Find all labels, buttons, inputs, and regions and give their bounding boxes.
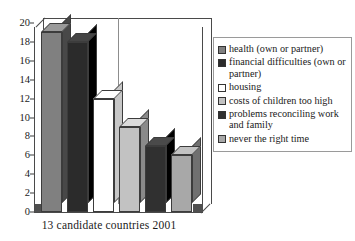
y-axis-tick-label: 10 <box>20 112 31 123</box>
legend-swatch-icon <box>218 84 226 92</box>
legend-item-1[interactable]: health (own or partner) <box>218 43 348 54</box>
bar-2 <box>67 42 88 212</box>
legend-item-label: never the right time <box>229 133 309 144</box>
bar-5 <box>145 146 166 212</box>
legend-item-label: problems reconciling work and family <box>229 108 348 131</box>
legend: health (own or partner)financial difficu… <box>213 37 352 152</box>
legend-swatch-icon <box>218 135 226 143</box>
legend-item-label: housing <box>229 81 261 92</box>
bar-front-face <box>67 42 88 212</box>
y-axis-tick-label: 12 <box>20 93 31 104</box>
y-axis-tick-mark <box>30 193 34 194</box>
legend-item-6[interactable]: never the right time <box>218 133 348 144</box>
bar-chart: 20181614121086420 13 candidate countries… <box>0 0 355 241</box>
y-axis-tick-mark <box>30 174 34 175</box>
bar-front-face <box>171 155 192 212</box>
bar-4 <box>119 127 140 212</box>
y-axis-tick-mark <box>30 79 34 80</box>
y-axis-tick-label: 16 <box>20 56 31 67</box>
legend-item-4[interactable]: costs of children too high <box>218 95 348 106</box>
y-axis-tick-label: 18 <box>20 37 31 48</box>
bar-front-face <box>145 146 166 212</box>
legend-item-label: financial difficulties (own or partner) <box>229 56 348 79</box>
y-axis-tick-mark <box>30 212 34 213</box>
plot-area <box>34 18 212 213</box>
y-axis-tick-mark <box>30 98 34 99</box>
legend-swatch-icon <box>218 97 226 105</box>
legend-item-3[interactable]: housing <box>218 81 348 92</box>
y-axis-tick-mark <box>30 117 34 118</box>
legend-item-label: health (own or partner) <box>229 43 323 54</box>
x-axis-label: 13 candidate countries 2001 <box>0 219 218 231</box>
legend-swatch-icon <box>218 46 226 54</box>
y-axis-tick-mark <box>30 60 34 61</box>
bars-group <box>35 18 203 213</box>
y-axis-tick-label: 20 <box>20 18 31 29</box>
bar-front-face <box>119 127 140 212</box>
legend-swatch-icon <box>218 59 226 67</box>
legend-swatch-icon <box>218 111 226 119</box>
y-axis-tick-mark <box>30 136 34 137</box>
y-axis-tick-mark <box>30 23 34 24</box>
y-axis-tick-mark <box>30 41 34 42</box>
bar-6 <box>171 155 192 212</box>
bar-3 <box>93 99 114 212</box>
bar-front-face <box>41 32 62 212</box>
bar-1 <box>41 32 62 212</box>
legend-item-2[interactable]: financial difficulties (own or partner) <box>218 56 348 79</box>
y-axis-tick-mark <box>30 155 34 156</box>
bar-front-face <box>93 99 114 212</box>
y-axis: 20181614121086420 <box>6 0 30 241</box>
legend-item-5[interactable]: problems reconciling work and family <box>218 108 348 131</box>
legend-item-label: costs of children too high <box>229 95 333 106</box>
y-axis-tick-label: 14 <box>20 74 31 85</box>
frame-back-right <box>211 18 212 204</box>
